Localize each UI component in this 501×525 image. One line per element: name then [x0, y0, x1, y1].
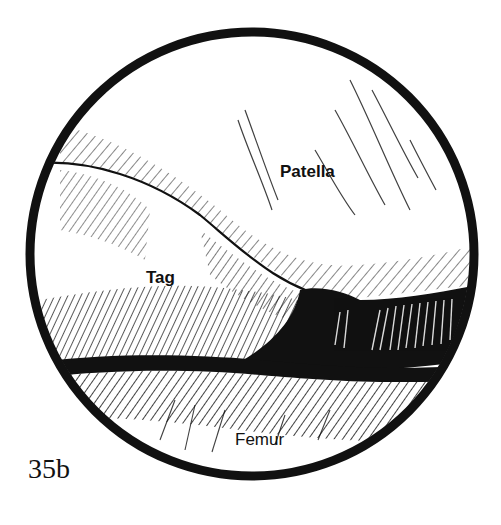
tag-label: Tag — [146, 269, 175, 286]
femur-label: Femur — [235, 431, 284, 448]
figure-number: 35b — [28, 455, 70, 483]
patella-label: Patella — [280, 163, 335, 180]
